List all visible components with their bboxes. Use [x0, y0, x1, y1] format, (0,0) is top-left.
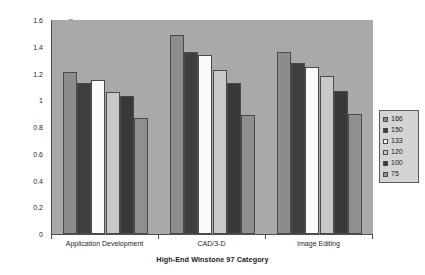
x-tick-mark	[372, 235, 373, 239]
legend-swatch-icon	[383, 128, 388, 133]
legend-item[interactable]: 120	[383, 147, 415, 157]
bar	[227, 83, 241, 234]
y-tick-label: 0.4	[33, 177, 43, 184]
legend-swatch-icon	[383, 150, 388, 155]
bar	[241, 115, 255, 234]
bar	[305, 67, 319, 234]
y-tick-label: 1	[39, 97, 43, 104]
legend-item[interactable]: 100	[383, 158, 415, 168]
chart-legend: 16615013312010075	[379, 110, 419, 183]
x-category-label: Image Editing	[297, 240, 340, 247]
legend-swatch-icon	[383, 117, 388, 122]
y-tick-label: 1.6	[33, 17, 43, 24]
y-tick-label: 1.2	[33, 70, 43, 77]
legend-swatch-icon	[383, 139, 388, 144]
x-tick-mark	[158, 235, 159, 239]
x-category-label: Application Development	[66, 240, 143, 247]
bar	[77, 83, 91, 234]
legend-label: 166	[391, 114, 403, 124]
y-axis-ticks: 00.20.40.60.811.21.41.6	[22, 0, 46, 275]
y-tick-label: 0.2	[33, 204, 43, 211]
y-tick-label: 0	[39, 231, 43, 238]
bar	[320, 76, 334, 234]
bar	[348, 114, 362, 234]
x-category-label: CAD/3-D	[197, 240, 225, 247]
bar-group	[266, 20, 373, 234]
bar-group	[159, 20, 266, 234]
plot-area	[51, 20, 373, 235]
bar	[184, 52, 198, 234]
bar	[120, 96, 134, 234]
legend-swatch-icon	[383, 161, 388, 166]
legend-item[interactable]: 166	[383, 114, 415, 124]
bar	[91, 80, 105, 234]
legend-item[interactable]: 150	[383, 125, 415, 135]
bar	[170, 35, 184, 234]
y-tick-label: 0.6	[33, 150, 43, 157]
bar-group	[52, 20, 159, 234]
x-tick-mark	[51, 235, 52, 239]
bar	[277, 52, 291, 234]
legend-label: 100	[391, 158, 403, 168]
bar	[213, 70, 227, 235]
legend-label: 75	[391, 169, 399, 179]
x-axis-title: High-End Winstone 97 Category	[0, 255, 425, 264]
bar	[334, 91, 348, 234]
bar-chart: High-End Winstone 97 Category Score 00.2…	[0, 0, 425, 275]
y-tick-label: 0.8	[33, 124, 43, 131]
legend-item[interactable]: 133	[383, 136, 415, 146]
legend-label: 120	[391, 147, 403, 157]
bar	[63, 72, 77, 234]
legend-item[interactable]: 75	[383, 169, 415, 179]
legend-swatch-icon	[383, 172, 388, 177]
legend-label: 133	[391, 136, 403, 146]
bar	[198, 55, 212, 234]
bar	[134, 118, 148, 234]
legend-label: 150	[391, 125, 403, 135]
bar	[291, 63, 305, 234]
bar	[106, 92, 120, 234]
x-tick-mark	[265, 235, 266, 239]
y-tick-label: 1.4	[33, 43, 43, 50]
